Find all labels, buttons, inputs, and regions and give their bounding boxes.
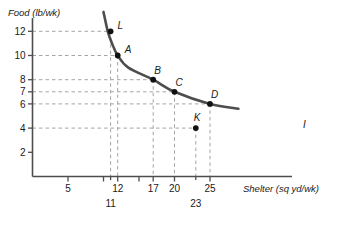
data-point-K xyxy=(193,125,199,131)
x-tick-label-11: 11 xyxy=(105,198,116,209)
data-point-L xyxy=(108,28,114,34)
x-tick-label-20: 20 xyxy=(169,183,181,194)
x-tick-label-5: 5 xyxy=(65,183,71,194)
chart-background xyxy=(0,0,340,235)
y-axis-title: Food (lb/wk) xyxy=(8,7,60,18)
data-point-C xyxy=(172,89,178,95)
data-point-D xyxy=(207,101,213,107)
data-point-label-D: D xyxy=(211,89,218,100)
y-tick-label-10: 10 xyxy=(14,50,26,61)
y-tick-label-6: 6 xyxy=(20,99,26,110)
y-tick-label-2: 2 xyxy=(20,147,26,158)
data-point-label-A: A xyxy=(124,44,132,55)
indifference-curve-chart: 1210876425111217202325 LABCDK Food (lb/w… xyxy=(0,0,340,235)
data-point-label-L: L xyxy=(118,20,124,31)
chart-canvas: 1210876425111217202325 LABCDK Food (lb/w… xyxy=(0,0,340,235)
x-tick-label-17: 17 xyxy=(148,183,160,194)
x-tick-label-12: 12 xyxy=(112,183,124,194)
data-point-B xyxy=(150,77,156,83)
y-tick-label-7: 7 xyxy=(20,86,26,97)
curve-label-I: I xyxy=(303,119,306,130)
y-tick-label-4: 4 xyxy=(20,123,26,134)
x-tick-label-25: 25 xyxy=(204,183,216,194)
data-point-A xyxy=(115,53,121,59)
y-tick-label-12: 12 xyxy=(14,26,26,37)
x-axis-title: Shelter (sq yd/wk) xyxy=(243,183,319,194)
y-tick-label-8: 8 xyxy=(20,74,26,85)
data-point-label-B: B xyxy=(154,65,161,76)
data-point-label-C: C xyxy=(176,77,184,88)
x-tick-label-23: 23 xyxy=(190,198,202,209)
